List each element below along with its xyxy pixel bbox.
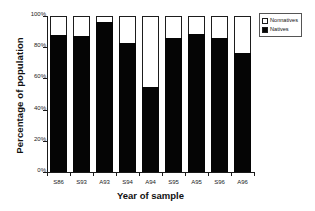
y-axis-tick-mark bbox=[43, 110, 48, 111]
x-axis-tick-mark bbox=[254, 172, 255, 176]
bar-segment-natives bbox=[234, 53, 251, 172]
x-axis-tick-mark bbox=[208, 172, 209, 176]
legend-swatch-icon bbox=[262, 27, 268, 33]
y-axis-tick-mark bbox=[43, 141, 48, 142]
bar-group bbox=[211, 16, 228, 172]
y-axis-tick: 40% bbox=[17, 110, 53, 111]
y-axis-tick: 60% bbox=[17, 78, 53, 79]
legend-entry: Nonnatives bbox=[262, 16, 298, 25]
x-axis-tick-mark bbox=[231, 172, 232, 176]
bar-group bbox=[73, 16, 90, 172]
bar-segment-natives bbox=[73, 36, 90, 172]
bar-segment-natives bbox=[96, 22, 113, 172]
x-axis-tick-mark bbox=[116, 172, 117, 176]
bar-segment-natives bbox=[50, 35, 67, 172]
chart-legend: NonnativesNatives bbox=[259, 13, 302, 37]
legend-entry-label: Nonnatives bbox=[270, 18, 298, 24]
bar-segment-natives bbox=[211, 38, 228, 172]
bar-group bbox=[234, 16, 251, 172]
y-axis-tick: 100% bbox=[17, 16, 53, 17]
bar-group bbox=[96, 16, 113, 172]
bar-segment-natives bbox=[142, 87, 159, 172]
y-axis-tick: 20% bbox=[17, 141, 53, 142]
bar-group bbox=[188, 16, 205, 172]
x-axis-tick-mark bbox=[185, 172, 186, 176]
bar-group bbox=[165, 16, 182, 172]
x-axis-tick-label: A96 bbox=[228, 179, 258, 185]
bar-segment-natives bbox=[119, 43, 136, 172]
x-axis-tick-mark bbox=[93, 172, 94, 176]
legend-swatch-icon bbox=[262, 18, 268, 24]
y-axis-line bbox=[47, 16, 48, 173]
bar-group bbox=[119, 16, 136, 172]
x-axis-title: Year of sample bbox=[47, 190, 254, 201]
x-axis-tick-mark bbox=[139, 172, 140, 176]
legend-entry-label: Natives bbox=[270, 27, 289, 33]
plot-area: 0%20%40%60%80%100% S86S93A93S94A94S95A95… bbox=[47, 16, 254, 172]
bar-group bbox=[50, 16, 67, 172]
bar-group bbox=[142, 16, 159, 172]
x-axis-tick-mark bbox=[47, 172, 48, 176]
y-axis-tick: 80% bbox=[17, 47, 53, 48]
y-axis-tick-mark bbox=[43, 16, 48, 17]
y-axis-title: Percentage of population bbox=[14, 11, 25, 181]
x-axis-tick-mark bbox=[162, 172, 163, 176]
bar-segment-natives bbox=[188, 34, 205, 172]
bar-segment-natives bbox=[165, 38, 182, 172]
legend-entry: Natives bbox=[262, 25, 298, 34]
x-axis-tick-mark bbox=[70, 172, 71, 176]
y-axis-tick-mark bbox=[43, 47, 48, 48]
x-axis-line bbox=[47, 172, 255, 173]
chart-figure: Percentage of population 0%20%40%60%80%1… bbox=[0, 0, 315, 211]
y-axis-tick-mark bbox=[43, 78, 48, 79]
